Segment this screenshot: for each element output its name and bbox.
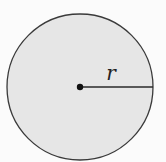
center-point xyxy=(77,84,83,90)
circle-diagram: r xyxy=(0,0,166,162)
radius-label: r xyxy=(106,61,117,85)
circle-figure: r xyxy=(0,0,166,162)
